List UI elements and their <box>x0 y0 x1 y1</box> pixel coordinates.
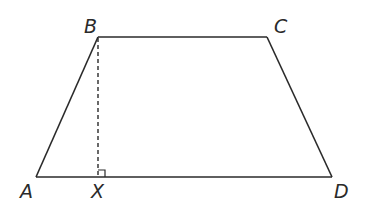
edge-ab <box>36 37 98 177</box>
vertex-label-b: B <box>84 15 97 37</box>
right-angle-marker <box>98 170 105 177</box>
vertex-label-a: A <box>18 180 33 202</box>
vertex-label-x: X <box>90 180 105 202</box>
edge-cd <box>267 37 332 177</box>
vertex-label-d: D <box>334 180 349 202</box>
trapezium-diagram: A B C D X <box>0 0 368 212</box>
vertex-label-c: C <box>274 15 288 37</box>
